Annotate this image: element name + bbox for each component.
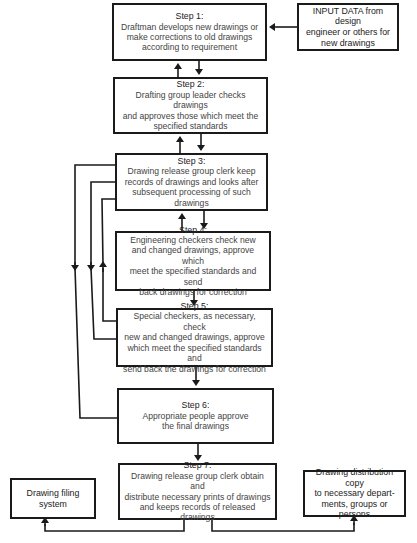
step-4-title: Step 4:: [179, 225, 207, 235]
step-6-box: Step 6: Appropriate people approve the f…: [117, 388, 274, 444]
step-7-line: distribute necessary prints of drawings: [124, 492, 270, 502]
step-6-line: Appropriate people approve: [142, 411, 248, 421]
input-data-box: INPUT DATA from design engineer or other…: [297, 3, 399, 51]
filing-line: Drawing filing: [27, 488, 80, 499]
step-1-box: Step 1: Draftman develops new drawings o…: [112, 3, 267, 61]
input-data-line: new drawings: [321, 38, 375, 49]
input-data-line: engineer or others for: [306, 27, 390, 38]
step-7-title: Step 7:: [184, 460, 212, 470]
distribution-line: Drawing distribution copy: [309, 467, 400, 488]
step-5-line: new and changed drawings, approve: [124, 332, 264, 342]
step-4-line: meet the specified standards and send: [121, 266, 265, 287]
distribution-line: to necessary depart-: [314, 488, 394, 499]
input-data-line: INPUT DATA from design: [303, 6, 393, 27]
step-3-box: Step 3: Drawing release group clerk keep…: [115, 153, 268, 211]
distribution-line: ments, groups or persons: [309, 499, 400, 520]
step-3-line: records of drawings and looks after: [125, 177, 259, 187]
filing-line: system: [39, 499, 67, 510]
step-1-line: Draftman develops new drawings or: [121, 22, 258, 32]
step-5-line: which meet the specified standards and: [122, 343, 267, 364]
drawing-filing-box: Drawing filing system: [10, 478, 96, 519]
step-5-title: Step 5:: [181, 301, 209, 311]
step-6-line: the final drawings: [162, 421, 229, 431]
step-5-line: send back the drawings for correction: [123, 364, 266, 374]
step-2-line: and approves those which meet the: [123, 111, 259, 121]
step-7-box: Step 7: Drawing release group clerk obta…: [118, 463, 277, 520]
step-4-line: and changed drawings, approve which: [121, 245, 265, 266]
step-1-line: make corrections to old drawings: [127, 32, 253, 42]
step-1-line: according to requirement: [142, 42, 237, 52]
step-4-line: Engineering checkers check new: [130, 235, 256, 245]
step-7-line: Drawing release group clerk obtain and: [124, 471, 271, 492]
step-2-title: Step 2:: [177, 79, 205, 89]
step-3-line: subsequent processing of such drawings: [121, 187, 262, 208]
step-2-box: Step 2: Drafting group leader checks dra…: [113, 77, 268, 134]
step-5-box: Step 5: Special checkers, as necessary, …: [116, 308, 273, 367]
step-6-title: Step 6:: [182, 400, 210, 410]
step-3-line: Drawing release group clerk keep: [127, 166, 255, 176]
step-4-box: Step 4: Engineering checkers check new a…: [115, 231, 271, 291]
step-2-line: Drafting group leader checks drawings: [119, 90, 262, 111]
step-2-line: specified standards: [153, 121, 227, 131]
step-4-line: back drawings for correction: [139, 287, 246, 297]
step-3-title: Step 3:: [178, 156, 206, 166]
step-5-line: Special checkers, as necessary, check: [122, 311, 267, 332]
drawing-distribution-box: Drawing distribution copy to necessary d…: [303, 470, 406, 517]
step-1-title: Step 1:: [176, 11, 204, 21]
step-7-line: and keeps records of released drawings: [124, 502, 271, 523]
